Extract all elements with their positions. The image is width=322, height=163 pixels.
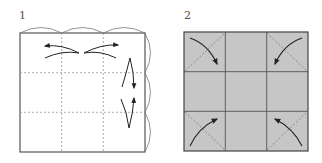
top-edge-arcs bbox=[20, 28, 145, 34]
step-1-diagram bbox=[20, 28, 151, 153]
right-edge-arcs bbox=[145, 33, 151, 152]
step-2-diagram bbox=[184, 32, 308, 151]
origami-diagram bbox=[0, 0, 322, 163]
